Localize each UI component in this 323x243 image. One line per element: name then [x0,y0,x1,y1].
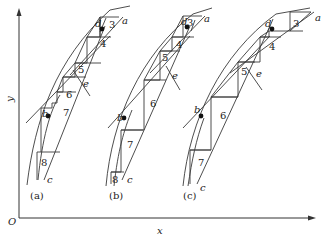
stage-label-3: 3 [109,19,115,30]
stage-label-7: 7 [127,139,133,150]
staircase [111,16,202,184]
mccabe-thiele-diagram-figure: y O x a d e b c 3 4 5 6 7 8 (a) [0,0,323,243]
point-d-label: d [95,18,101,29]
x-axis-arrow-icon [308,216,316,221]
x-axis-label: x [157,225,163,236]
point-e-label: e [172,70,178,81]
point-b-label: b [194,104,200,115]
y-axis-arrow-icon [17,8,22,16]
point-b-label: b [42,108,48,119]
panel-caption-a: (a) [30,190,44,201]
stage-label-4: 4 [176,39,182,50]
stage-label-8: 8 [112,174,118,185]
point-a-label: a [122,15,128,26]
origin-label: O [8,216,16,227]
point-a-label: a [204,13,210,24]
point-b-label: b [117,112,123,123]
stage-label-7: 7 [198,157,204,168]
stage-label-6: 6 [150,98,156,109]
point-e-label: e [256,68,262,79]
stage-label-5: 5 [78,64,84,75]
panel-caption-b: (b) [109,190,123,201]
panel-c: a d e b c 3 4 5 6 7 (c) [183,8,321,201]
point-e-label: e [83,78,89,89]
point-a-label: a [315,12,321,23]
step-rungs [190,31,303,150]
point-c-label: c [47,174,53,185]
point-d-label: d [265,18,271,29]
stage-label-8: 8 [41,157,47,168]
stage-label-6: 6 [66,89,72,100]
staircase [190,12,311,184]
stage-label-4: 4 [100,38,106,49]
stripping-line [197,26,270,184]
stage-label-6: 6 [220,110,226,121]
stage-label-3: 3 [187,17,193,28]
stage-label-3: 3 [293,18,299,29]
stage-label-5: 5 [162,52,168,63]
stage-label-4: 4 [269,41,275,52]
panel-caption-c: (c) [183,190,197,201]
stage-label-7: 7 [63,107,69,118]
y-axis-label: y [4,96,15,103]
point-c-label: c [127,174,133,185]
point-c-label: c [200,182,206,193]
stage-label-5: 5 [241,66,247,77]
